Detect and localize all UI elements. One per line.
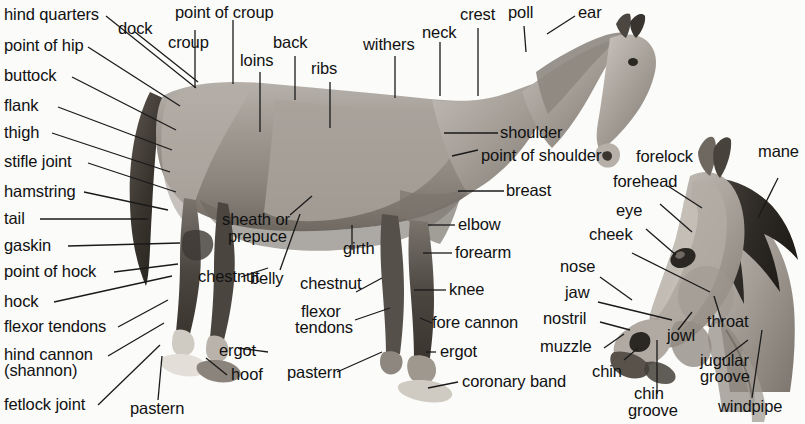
label-ribs: ribs <box>311 60 337 77</box>
label-stifle-joint: stifle joint <box>4 153 72 170</box>
label-tail: tail <box>4 210 25 227</box>
label-nostril: nostril <box>543 310 586 327</box>
label-forelock: forelock <box>636 148 693 165</box>
label-forearm: forearm <box>455 244 511 261</box>
label-crest: crest <box>460 6 495 23</box>
label-shoulder: shoulder <box>500 124 563 141</box>
label-point-of-hock: point of hock <box>4 263 96 280</box>
label-girth: girth <box>343 240 375 257</box>
label-gaskin: gaskin <box>4 237 51 254</box>
label-fore-cannon: fore cannon <box>432 314 518 331</box>
label-buttock: buttock <box>4 67 57 84</box>
label-muzzle: muzzle <box>540 338 592 355</box>
label-flank: flank <box>4 97 38 114</box>
label-chin: chin <box>592 363 622 380</box>
label-hamstring: hamstring <box>4 183 76 200</box>
label-flexor-tendons-left: flexor tendons <box>4 318 106 335</box>
label-withers: withers <box>363 36 415 53</box>
label-breast: breast <box>506 182 551 199</box>
label-knee: knee <box>449 281 484 298</box>
label-dock: dock <box>118 20 152 37</box>
label-ergot-left: ergot <box>219 342 256 359</box>
label-forehead: forehead <box>613 173 677 190</box>
horse-artwork <box>0 0 805 424</box>
label-throat: throat <box>707 313 749 330</box>
label-pastern-center: pastern <box>287 364 341 381</box>
label-ergot-center: ergot <box>440 343 477 360</box>
label-nose: nose <box>560 258 595 275</box>
horse-anatomy-diagram: hind quarters point of hip buttock flank… <box>0 0 805 424</box>
label-flexor-line2: tendons <box>295 319 353 336</box>
label-point-of-croup: point of croup <box>175 4 274 21</box>
label-jaw: jaw <box>565 284 589 301</box>
label-back: back <box>273 34 307 51</box>
label-ear: ear <box>578 4 602 21</box>
label-chin-groove-line1: chin <box>634 385 664 402</box>
label-cheek: cheek <box>589 226 633 243</box>
label-loins: loins <box>240 52 273 69</box>
label-chin-groove-line2: groove <box>628 402 678 419</box>
label-eye: eye <box>616 202 642 219</box>
label-neck: neck <box>422 24 456 41</box>
label-thigh: thigh <box>4 124 39 141</box>
label-coronary-band: coronary band <box>462 373 566 390</box>
label-hoof: hoof <box>231 366 263 383</box>
label-fetlock-joint: fetlock joint <box>4 396 85 413</box>
label-sheath-line1: sheath or <box>222 211 290 228</box>
label-windpipe: windpipe <box>718 398 782 415</box>
label-hock: hock <box>4 293 38 310</box>
label-chestnut-center: chestnut <box>300 275 362 292</box>
label-croup: croup <box>168 34 209 51</box>
label-pastern-left: pastern <box>130 400 184 417</box>
label-hind-quarters: hind quarters <box>4 6 99 23</box>
label-jugular-line2: groove <box>700 368 750 385</box>
label-point-of-hip: point of hip <box>4 37 84 54</box>
label-poll: poll <box>508 4 533 21</box>
label-jowl: jowl <box>667 327 695 344</box>
label-point-of-shoulder: point of shoulder <box>481 147 601 164</box>
label-chestnut-left: chestnut <box>198 268 260 285</box>
label-elbow: elbow <box>458 216 501 233</box>
label-sheath-line2: prepuce <box>228 228 287 245</box>
label-mane: mane <box>758 143 799 160</box>
label-hind-cannon-line2: (shannon) <box>4 362 77 379</box>
